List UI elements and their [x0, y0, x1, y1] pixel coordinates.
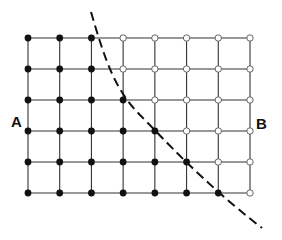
grid-nodes: [25, 35, 254, 197]
filled-node: [56, 97, 63, 104]
label-b: B: [256, 116, 267, 131]
filled-node: [56, 128, 63, 135]
open-node: [247, 97, 253, 103]
filled-node: [25, 159, 32, 166]
filled-node: [151, 159, 158, 166]
open-node: [183, 97, 189, 103]
open-node: [215, 66, 221, 72]
filled-node: [25, 66, 32, 73]
filled-node: [25, 35, 32, 42]
open-node: [215, 97, 221, 103]
filled-node: [120, 190, 127, 197]
open-node: [120, 66, 126, 72]
open-node: [183, 128, 189, 134]
open-node: [152, 97, 158, 103]
filled-node: [56, 159, 63, 166]
filled-node: [120, 159, 127, 166]
filled-node: [25, 190, 32, 197]
filled-node: [56, 66, 63, 73]
open-node: [247, 66, 253, 72]
open-node: [215, 35, 221, 41]
filled-node: [88, 128, 95, 135]
dashed-boundary-curve: [91, 12, 262, 228]
open-node: [215, 159, 221, 165]
open-node: [152, 35, 158, 41]
filled-node: [88, 35, 95, 42]
filled-node: [56, 35, 63, 42]
filled-node: [120, 97, 127, 104]
lattice-diagram: [0, 0, 282, 240]
filled-node: [88, 159, 95, 166]
open-node: [247, 35, 253, 41]
open-node: [247, 159, 253, 165]
open-node: [247, 190, 253, 196]
filled-node: [88, 66, 95, 73]
filled-node: [183, 159, 190, 166]
filled-node: [215, 190, 222, 197]
filled-node: [151, 190, 158, 197]
filled-node: [151, 128, 158, 135]
open-node: [215, 128, 221, 134]
filled-node: [88, 97, 95, 104]
open-node: [247, 128, 253, 134]
open-node: [183, 35, 189, 41]
filled-node: [120, 128, 127, 135]
open-node: [120, 35, 126, 41]
filled-node: [88, 190, 95, 197]
filled-node: [183, 190, 190, 197]
open-node: [183, 66, 189, 72]
filled-node: [25, 97, 32, 104]
filled-node: [56, 190, 63, 197]
label-a: A: [11, 114, 22, 129]
filled-node: [25, 128, 32, 135]
open-node: [152, 66, 158, 72]
grid-lines: [28, 38, 250, 193]
